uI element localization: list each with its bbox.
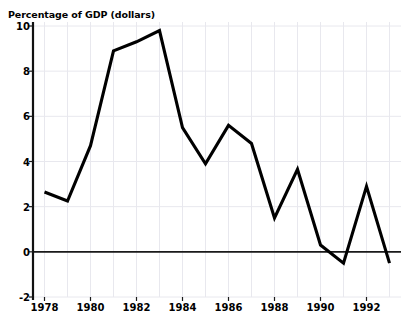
y-tick-label: 0	[8, 246, 30, 257]
x-axis-tick-marks	[45, 297, 367, 301]
x-tick-label: 1980	[77, 302, 105, 313]
y-tick-label: 8	[8, 66, 30, 77]
data-series-line	[45, 31, 390, 264]
y-tick-label: 10	[8, 21, 30, 32]
x-tick-label: 1978	[31, 302, 59, 313]
chart-figure: Percentage of GDP (dollars) 1086420-2 19…	[0, 0, 409, 324]
x-tick-label: 1992	[353, 302, 381, 313]
x-tick-label: 1984	[169, 302, 197, 313]
x-tick-label: 1986	[215, 302, 243, 313]
plot-area	[0, 0, 409, 324]
x-tick-label: 1988	[261, 302, 289, 313]
vertical-gridlines	[45, 22, 390, 297]
y-tick-label: 4	[8, 156, 30, 167]
x-tick-label: 1990	[307, 302, 335, 313]
y-tick-label: 6	[8, 111, 30, 122]
y-tick-label: 2	[8, 201, 30, 212]
y-tick-label: -2	[8, 292, 30, 303]
y-axis-labels: 1086420-2	[0, 0, 30, 324]
x-tick-label: 1982	[123, 302, 151, 313]
